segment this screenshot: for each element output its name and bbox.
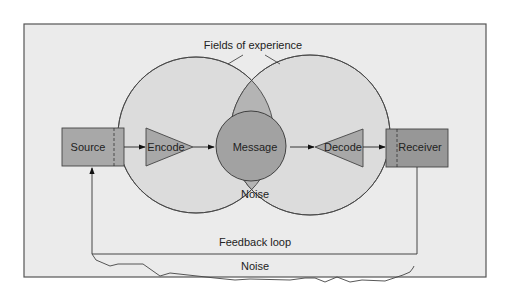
noise-center-label: Noise bbox=[241, 188, 269, 200]
encode-label: Encode bbox=[147, 141, 184, 153]
feedback-loop-label: Feedback loop bbox=[219, 236, 291, 248]
noise-bottom-label: Noise bbox=[241, 260, 269, 272]
fields-of-experience-label: Fields of experience bbox=[204, 39, 302, 51]
communication-model-diagram: Fields of experience Source Encode Messa… bbox=[0, 0, 511, 303]
source-label: Source bbox=[71, 141, 106, 153]
message-label: Message bbox=[233, 141, 278, 153]
decode-label: Decode bbox=[324, 141, 362, 153]
receiver-label: Receiver bbox=[398, 141, 442, 153]
